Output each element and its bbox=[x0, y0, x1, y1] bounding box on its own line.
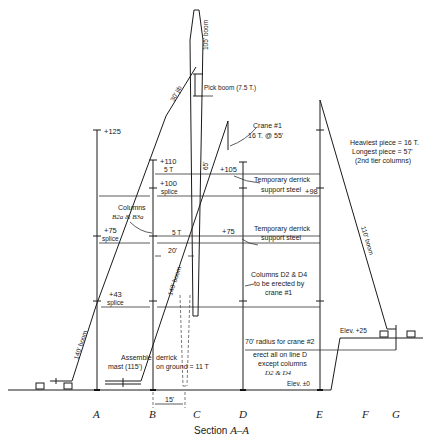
assemble-right-2: on ground = 11 T bbox=[156, 363, 210, 371]
column-base bbox=[150, 389, 156, 391]
right-boom-label: 110' boom bbox=[360, 225, 375, 255]
load-5t-upper: 5 T bbox=[164, 166, 173, 173]
temp-support-leader-2 bbox=[242, 239, 258, 245]
column-letter-d: D bbox=[238, 408, 247, 420]
heaviest-piece: Heaviest piece = 16 T. bbox=[350, 139, 419, 147]
column-base bbox=[317, 389, 323, 391]
erect-line1: erect all on line D bbox=[253, 351, 307, 358]
column-base bbox=[240, 389, 246, 391]
caption-section: A–A bbox=[229, 424, 249, 436]
dim-15-label: 15' bbox=[165, 396, 174, 403]
elev-75-d: +75 bbox=[222, 227, 235, 236]
load-5t-lower: 5 T bbox=[172, 229, 181, 236]
crane-pad bbox=[36, 383, 44, 389]
columns-b-line2: B2a & B3a bbox=[112, 213, 144, 221]
upper-ground-line bbox=[331, 338, 423, 390]
elev-ground: Elev. ±0 bbox=[287, 380, 310, 387]
columns-b-line1: Columns bbox=[118, 204, 146, 211]
elev-105: +105 bbox=[220, 165, 237, 174]
crane-pad bbox=[380, 331, 388, 337]
section-drawing: 105' boom 30' jib 65' 140' boom 140' boo… bbox=[0, 0, 434, 447]
columns-d-line1: Columns D2 & D4 bbox=[251, 271, 307, 278]
dim-20-label: 20' bbox=[168, 247, 177, 254]
temp-support-2-line2: support steel bbox=[261, 234, 302, 242]
assemble-left-2: mast (115') bbox=[108, 363, 142, 371]
mast-65-label: 65' bbox=[202, 162, 209, 170]
elev-125: +125 bbox=[104, 127, 121, 136]
elev-110: +110 bbox=[160, 157, 176, 166]
crane1-label: Crane #1 bbox=[253, 122, 282, 129]
mid-boom-label: 140' boom bbox=[166, 265, 182, 296]
columns-d-line3: crane #1 bbox=[265, 289, 292, 296]
column-letter-a: A bbox=[92, 408, 100, 420]
elev-43: +43 bbox=[109, 290, 122, 299]
left-boom-label: 140' boom bbox=[72, 329, 88, 360]
temp-support-1-line1: Temporary derrick bbox=[254, 176, 311, 184]
temp-support-1-line2: support steel bbox=[261, 186, 302, 194]
elev-100: +100 bbox=[160, 179, 177, 188]
mast-ground-outline bbox=[180, 295, 183, 386]
columns-d-line2: to be erected by bbox=[254, 280, 305, 288]
crane-pad bbox=[407, 331, 415, 337]
column-letter-f: F bbox=[361, 408, 369, 420]
pick-boom-label: Pick boom (7.5 T.) bbox=[204, 84, 256, 92]
erect-line3: D2 & D4 bbox=[264, 369, 292, 377]
tier-note: (2nd tier columns) bbox=[355, 157, 411, 165]
derrick-boom-label: 105' boom bbox=[202, 20, 209, 50]
caption-prefix: Section bbox=[194, 425, 230, 436]
elev-75: +75 bbox=[104, 226, 117, 235]
crane1-capacity: 16 T. @ 55' bbox=[248, 132, 283, 139]
splice-43: splice bbox=[107, 299, 124, 307]
elev-upper-ground: Elev. +25 bbox=[340, 327, 367, 334]
columns-d-leader bbox=[245, 284, 254, 286]
radius-crane2-label: 70' radius for crane #2 bbox=[245, 338, 315, 345]
column-letter-g: G bbox=[392, 408, 400, 420]
right-110-boom bbox=[320, 100, 396, 329]
assemble-right-1: derrick bbox=[156, 354, 178, 361]
columns-b-leader bbox=[130, 222, 152, 233]
erect-line2: except columns bbox=[258, 360, 307, 368]
mast-ground-outline bbox=[187, 295, 190, 386]
column-letter-b: B bbox=[149, 408, 156, 420]
temp-support-2-line1: Temporary derrick bbox=[254, 225, 311, 233]
figure-caption: Section A–A bbox=[194, 424, 249, 436]
left-140-boom bbox=[72, 67, 196, 381]
column-base bbox=[94, 389, 100, 391]
assemble-left-1: Assemble bbox=[121, 354, 152, 361]
splice-100: splice bbox=[161, 188, 178, 196]
splice-75: splice bbox=[102, 235, 119, 243]
column-letter-c: C bbox=[193, 408, 201, 420]
crane-pad bbox=[64, 383, 72, 389]
elev-98: +98 bbox=[305, 187, 318, 196]
longest-piece: Longest piece = 57' bbox=[352, 148, 413, 156]
column-letter-e: E bbox=[315, 408, 323, 420]
